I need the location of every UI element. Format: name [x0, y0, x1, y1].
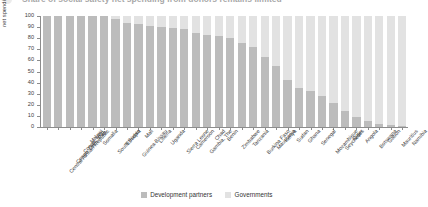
bar-column[interactable]	[352, 16, 360, 127]
bar-segment-governments	[364, 16, 372, 121]
bar-segment-governments	[134, 16, 142, 24]
y-axis-tick-label: 60	[20, 57, 34, 63]
bar-segment-development-partners	[295, 88, 303, 127]
bar-segment-governments	[329, 16, 337, 103]
bullet-icon	[3, 0, 12, 4]
bar-segment-development-partners	[77, 16, 85, 127]
bar-segment-development-partners	[341, 111, 349, 127]
bar-segment-governments	[215, 16, 223, 36]
bar-column[interactable]	[180, 16, 188, 127]
x-axis-category-label: Senegal	[319, 128, 336, 146]
bar-column[interactable]	[306, 16, 314, 127]
bar-column[interactable]	[43, 16, 51, 127]
bar-segment-governments	[226, 16, 234, 38]
bar-segment-governments	[375, 16, 383, 124]
bar-segment-development-partners	[88, 16, 96, 127]
legend-swatch-icon-governments	[225, 192, 231, 198]
y-axis-tick-labels: 1009080706050403020100	[20, 16, 36, 127]
page-title: Share of social safety net spending from…	[22, 0, 282, 4]
y-axis-tick	[37, 38, 40, 39]
bar-column[interactable]	[295, 16, 303, 127]
bar-segment-governments	[123, 16, 131, 23]
x-axis-category-label: Angola	[364, 128, 379, 144]
bar-column[interactable]	[261, 16, 269, 127]
bar-segment-development-partners	[318, 96, 326, 127]
bar-segment-development-partners	[203, 35, 211, 127]
y-axis-tick-label: 30	[20, 91, 34, 97]
legend-item-governments[interactable]: Governments	[225, 192, 272, 198]
bar-segment-development-partners	[226, 38, 234, 127]
bar-segment-governments	[146, 16, 154, 26]
bar-segment-development-partners	[134, 24, 142, 127]
bar-column[interactable]	[192, 16, 200, 127]
bar-segment-development-partners	[54, 16, 62, 127]
legend-label-governments: Governments	[235, 192, 273, 198]
bar-column[interactable]	[88, 16, 96, 127]
bar-segment-governments	[272, 16, 280, 66]
y-axis-tick-label: 10	[20, 113, 34, 119]
x-axis-category-label: Mali	[144, 128, 155, 139]
y-axis-tick-label: 40	[20, 80, 34, 86]
y-axis-tick-label: 0	[20, 124, 34, 130]
bar-column[interactable]	[77, 16, 85, 127]
bar-column[interactable]	[203, 16, 211, 127]
bar-segment-development-partners	[261, 57, 269, 127]
bar-column[interactable]	[226, 16, 234, 127]
y-axis-tick	[37, 27, 40, 28]
bar-segment-development-partners	[146, 26, 154, 127]
bar-column[interactable]	[215, 16, 223, 127]
bar-segment-development-partners	[111, 19, 119, 127]
bar-column[interactable]	[157, 16, 165, 127]
bar-column[interactable]	[169, 16, 177, 127]
bar-segment-development-partners	[169, 28, 177, 127]
bar-segment-governments	[318, 16, 326, 96]
bar-segment-development-partners	[180, 29, 188, 127]
bar-column[interactable]	[66, 16, 74, 127]
legend-item-development-partners[interactable]: Development partners	[141, 192, 212, 198]
y-axis-tick-label: 20	[20, 102, 34, 108]
y-axis-tick	[37, 72, 40, 73]
bar-column[interactable]	[272, 16, 280, 127]
legend: Development partners Governments	[0, 189, 413, 201]
bar-column[interactable]	[341, 16, 349, 127]
bar-segment-development-partners	[329, 103, 337, 127]
bar-segment-development-partners	[123, 23, 131, 127]
y-axis-tick-label: 80	[20, 35, 34, 41]
bar-segment-development-partners	[283, 80, 291, 127]
bar-segment-governments	[238, 16, 246, 43]
bar-column[interactable]	[387, 16, 395, 127]
bar-segment-development-partners	[249, 47, 257, 127]
bar-column[interactable]	[238, 16, 246, 127]
bar-column[interactable]	[375, 16, 383, 127]
bar-segment-governments	[203, 16, 211, 35]
bar-column[interactable]	[318, 16, 326, 127]
bar-column[interactable]	[364, 16, 372, 127]
bar-column[interactable]	[134, 16, 142, 127]
bar-column[interactable]	[111, 16, 119, 127]
bar-segment-governments	[341, 16, 349, 111]
bar-segment-governments	[157, 16, 165, 27]
bar-column[interactable]	[123, 16, 131, 127]
bar-segment-governments	[352, 16, 360, 117]
y-axis-tick	[37, 94, 40, 95]
y-axis-tick	[37, 105, 40, 106]
bar-column[interactable]	[100, 16, 108, 127]
bar-segment-governments	[249, 16, 257, 47]
bar-column[interactable]	[249, 16, 257, 127]
bar-column[interactable]	[54, 16, 62, 127]
legend-swatch-icon-development-partners	[141, 192, 147, 198]
bar-segment-governments	[295, 16, 303, 88]
bar-column[interactable]	[146, 16, 154, 127]
bar-column[interactable]	[283, 16, 291, 127]
bar-segment-governments	[387, 16, 395, 125]
bar-segment-development-partners	[215, 36, 223, 127]
y-axis-tick	[37, 16, 40, 17]
bar-column[interactable]	[398, 16, 406, 127]
bar-segment-governments	[180, 16, 188, 29]
y-axis-tick-label: 70	[20, 46, 34, 52]
bar-segment-development-partners	[192, 33, 200, 127]
x-axis-category-labels: Central African RepublicCongo, Dem. Rep.…	[40, 128, 413, 186]
x-axis-category-label: Gabon	[387, 128, 402, 144]
bar-column[interactable]	[329, 16, 337, 127]
bar-segment-governments	[111, 16, 119, 19]
